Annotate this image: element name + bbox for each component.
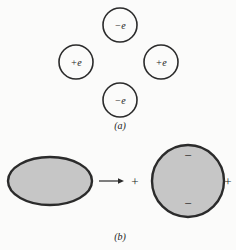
left-charge-label: +e <box>70 57 82 68</box>
right-charge-label: +e <box>155 57 167 68</box>
figure-canvas: −e +e +e −e (a) + <box>0 0 236 250</box>
panel-a-label: (a) <box>114 120 126 132</box>
top-charge-label: −e <box>114 20 126 31</box>
bottom-charge: −e <box>103 83 137 117</box>
oblate-body <box>8 157 92 205</box>
plus-sign-right: + <box>224 174 231 189</box>
physics-figure: −e +e +e −e (a) + <box>0 0 236 250</box>
left-charge: +e <box>59 45 93 79</box>
plus-sign-left: + <box>131 174 138 189</box>
induced-minus-top: − <box>184 148 191 163</box>
top-charge: −e <box>103 8 137 42</box>
induced-minus-bottom: − <box>184 196 191 211</box>
panel-b-label: (b) <box>114 231 126 243</box>
bottom-charge-label: −e <box>114 95 126 106</box>
right-charge: +e <box>144 45 178 79</box>
